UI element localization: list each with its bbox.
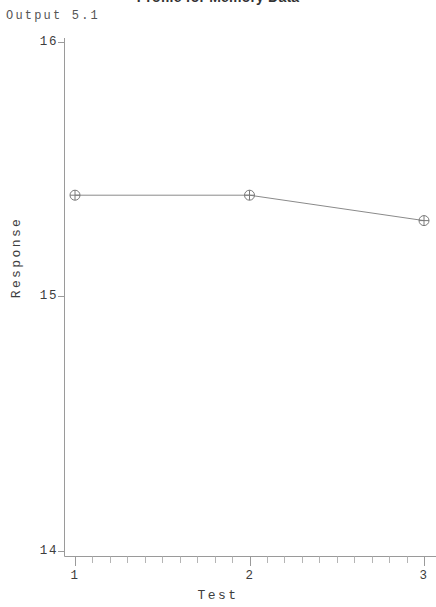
data-point-marker [70, 190, 80, 200]
plot-canvas [0, 0, 436, 607]
data-series [70, 190, 429, 225]
data-point-marker [419, 216, 429, 226]
y-axis-ticks [58, 43, 65, 552]
x-axis-ticks [76, 557, 425, 567]
data-point-marker [245, 190, 255, 200]
chart-figure: Profile for Memory Data Output 5.1 Respo… [0, 0, 436, 607]
